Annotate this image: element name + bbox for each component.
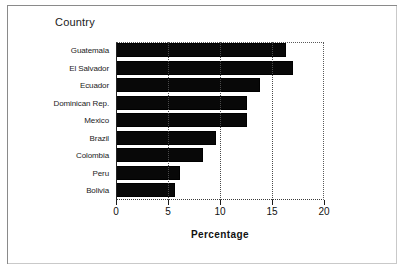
x-axis-tick-label: 5	[153, 206, 183, 217]
y-axis-tick-label: Guatemala	[71, 42, 109, 60]
y-axis-tick-label: Mexico	[84, 112, 109, 130]
x-axis-tick	[272, 200, 273, 205]
bar	[116, 78, 260, 92]
y-axis-labels: GuatemalaEl SalvadorEcuadorDominican Rep…	[20, 42, 113, 200]
bar	[116, 166, 180, 180]
y-axis-tick-label: Ecuador	[80, 77, 109, 95]
bar	[116, 131, 216, 145]
y-axis-tick-label: Brazil	[90, 130, 109, 148]
plot-area	[116, 42, 324, 200]
y-axis-tick-label: Bolivia	[86, 182, 109, 200]
y-axis-tick-label: Peru	[93, 165, 110, 183]
gridline	[220, 42, 221, 200]
chart-figure: Country GuatemalaEl SalvadorEcuadorDomin…	[0, 0, 406, 276]
x-axis-tick-label: 10	[205, 206, 235, 217]
x-axis-tick	[168, 200, 169, 205]
bar	[116, 43, 286, 57]
x-axis-tick	[116, 200, 117, 205]
bar	[116, 61, 293, 75]
bar	[116, 96, 247, 110]
gridline	[168, 42, 169, 200]
gridline	[272, 42, 273, 200]
y-axis-title: Country	[55, 16, 95, 28]
x-axis-tick-label: 0	[101, 206, 131, 217]
y-axis-tick-label: El Salvador	[69, 60, 109, 78]
bar	[116, 183, 175, 197]
x-axis-tick	[324, 200, 325, 205]
x-axis-title: Percentage	[116, 229, 324, 240]
y-axis-tick-label: Dominican Rep.	[53, 95, 109, 113]
bar	[116, 113, 247, 127]
y-axis-tick-label: Colombia	[76, 147, 109, 165]
bar	[116, 148, 203, 162]
x-axis-tick-label: 20	[309, 206, 339, 217]
x-axis-tick-label: 15	[257, 206, 287, 217]
x-axis-tick	[220, 200, 221, 205]
